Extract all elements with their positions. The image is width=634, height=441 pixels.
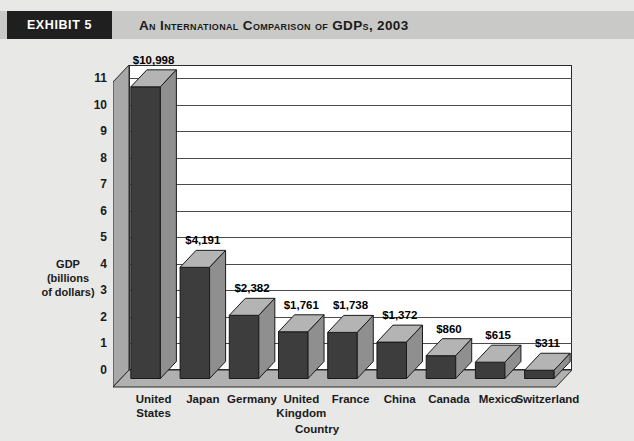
- y-tick-label: 1: [85, 336, 107, 350]
- bar-front-face: [279, 332, 309, 379]
- bar-front-face: [525, 370, 555, 378]
- plot-left-wall: [113, 65, 129, 387]
- y-axis-tick-labels: 01234567891011: [79, 65, 107, 370]
- y-tick-label: 8: [85, 151, 107, 165]
- bar-front-face: [426, 356, 456, 379]
- y-tick-label: 0: [85, 363, 107, 377]
- bar-side-face: [210, 250, 226, 378]
- bar-front-face: [328, 332, 358, 378]
- bar-value-label: $2,382: [234, 282, 269, 294]
- bar-front-face: [229, 315, 259, 378]
- exhibit-title: An International Comparison of GDPs, 200…: [139, 11, 409, 39]
- bar-side-face: [160, 70, 176, 379]
- bar-value-label: $1,761: [284, 299, 319, 311]
- category-label-line: States: [115, 407, 193, 421]
- bar-front-face: [475, 362, 505, 378]
- category-label-line: Kingdom: [262, 407, 340, 421]
- chart-container: GDP (billions of dollars) 01234567891011…: [0, 45, 634, 441]
- bar-front-face: [377, 342, 407, 378]
- exhibit-tag: EXHIBIT 5: [7, 11, 112, 39]
- bar-front-face: [131, 87, 161, 379]
- bar-value-label: $10,998: [133, 54, 175, 66]
- x-axis-title: Country: [0, 423, 634, 435]
- y-tick-label: 2: [85, 310, 107, 324]
- y-tick-label: 7: [85, 177, 107, 191]
- y-tick-label: 3: [85, 283, 107, 297]
- bar-value-label: $860: [436, 323, 462, 335]
- y-tick-label: 6: [85, 204, 107, 218]
- bar-value-label: $615: [485, 329, 511, 341]
- x-axis-category-labels: UnitedStatesJapanGermanyUnitedKingdomFra…: [113, 393, 588, 425]
- y-tick-label: 10: [85, 98, 107, 112]
- y-tick-label: 9: [85, 124, 107, 138]
- category-label-line: Switzerland: [508, 393, 586, 407]
- category-label: Switzerland: [508, 393, 586, 407]
- y-tick-label: 11: [85, 71, 107, 85]
- y-tick-label: 5: [85, 230, 107, 244]
- bar-front-face: [180, 267, 210, 378]
- bar-value-label: $311: [535, 337, 560, 349]
- chart-plot: [113, 65, 588, 395]
- bar-value-label: $1,738: [333, 299, 368, 311]
- bar-value-label: $4,191: [185, 234, 220, 246]
- bar-value-label: $1,372: [382, 309, 417, 321]
- y-tick-label: 4: [85, 257, 107, 271]
